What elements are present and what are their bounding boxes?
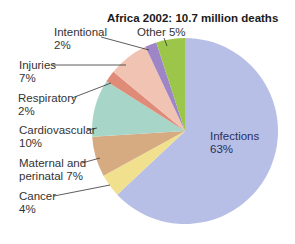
- label-respiratory-name: Respiratory: [18, 92, 77, 105]
- label-respiratory: Respiratory 2%: [18, 92, 77, 118]
- label-respiratory-value: 2%: [18, 105, 77, 118]
- label-cardiovascular: Cardiovascular 10%: [19, 124, 96, 150]
- label-intentional-name: Intentional: [54, 26, 107, 39]
- label-cancer: Cancer 4%: [19, 190, 56, 216]
- label-injuries-name: Injuries: [19, 59, 56, 72]
- label-cancer-value: 4%: [19, 203, 56, 216]
- label-injuries-value: 7%: [19, 72, 56, 85]
- label-intentional: Intentional 2%: [54, 26, 107, 52]
- label-cancer-name: Cancer: [19, 190, 56, 203]
- label-infections: Infections 63%: [210, 130, 259, 156]
- label-infections-value: 63%: [210, 143, 259, 156]
- label-cardiovascular-value: 10%: [19, 137, 96, 150]
- leader-cancer: [54, 185, 110, 196]
- label-other: Other 5%: [137, 26, 186, 39]
- label-infections-name: Infections: [210, 130, 259, 143]
- label-maternal-line1: Maternal and: [19, 157, 86, 170]
- label-injuries: Injuries 7%: [19, 59, 56, 85]
- label-maternal: Maternal and perinatal 7%: [19, 157, 86, 183]
- label-maternal-line2: perinatal 7%: [19, 170, 86, 183]
- label-intentional-value: 2%: [54, 39, 107, 52]
- label-cardiovascular-name: Cardiovascular: [19, 124, 96, 137]
